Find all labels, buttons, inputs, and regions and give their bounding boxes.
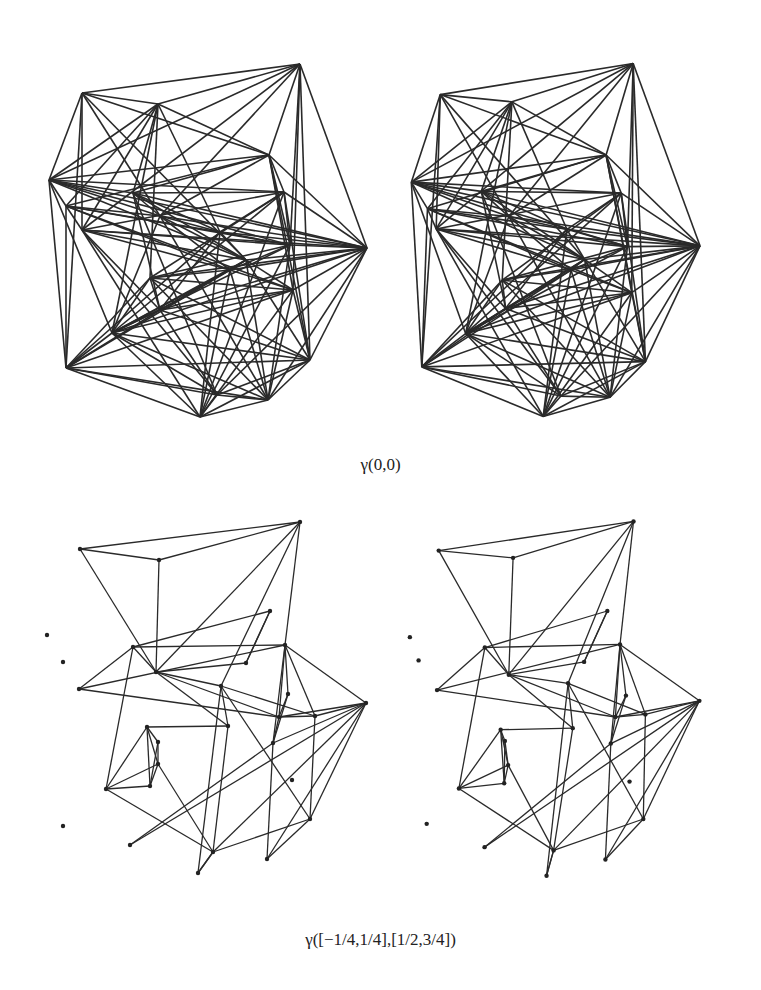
graph-vertex xyxy=(582,660,586,664)
graph-vertex xyxy=(511,556,515,560)
graph-vertex xyxy=(506,763,510,767)
graph-vertex xyxy=(408,635,412,639)
graph-edge xyxy=(554,701,700,851)
graph-edge xyxy=(509,521,634,674)
graph-edge xyxy=(411,182,421,367)
graph-vertex xyxy=(618,642,622,646)
graph-edge xyxy=(568,683,643,819)
graph-edge xyxy=(156,663,246,672)
graph-vertex xyxy=(277,715,281,719)
graph-vertex xyxy=(605,609,609,613)
dense-graph-top-right xyxy=(411,63,700,416)
graph-edge xyxy=(273,645,285,743)
graph-vertex xyxy=(148,784,152,788)
graph-edge xyxy=(82,230,290,245)
graph-edge xyxy=(246,611,270,663)
graph-vertex xyxy=(551,848,555,852)
graph-edge xyxy=(80,549,156,672)
graph-vertex xyxy=(298,520,302,524)
graph-edge xyxy=(106,789,213,852)
graph-vertex xyxy=(131,645,135,649)
graph-vertex xyxy=(271,741,275,745)
graph-edge xyxy=(112,333,200,417)
graph-vertex xyxy=(435,688,439,692)
graph-vertex xyxy=(219,684,223,688)
graph-edge xyxy=(300,64,367,248)
graph-vertex xyxy=(61,824,65,828)
graph-vertex xyxy=(503,739,507,743)
graph-vertex xyxy=(156,740,160,744)
graph-edge xyxy=(501,728,573,730)
graph-edge xyxy=(66,368,268,400)
graph-vertex xyxy=(641,817,645,821)
graph-edge xyxy=(513,521,633,557)
graph-edge xyxy=(79,645,285,689)
graph-edge xyxy=(439,551,509,675)
graph-edge xyxy=(459,648,485,789)
sparse-graph-bottom-right xyxy=(408,519,702,878)
graph-edge xyxy=(159,522,300,560)
graph-edge xyxy=(568,683,645,714)
graph-edge xyxy=(221,686,310,819)
graph-edge xyxy=(66,333,112,368)
graph-edge xyxy=(133,611,270,647)
graph-edge xyxy=(439,521,634,550)
graph-vertex xyxy=(154,670,158,674)
graph-edge xyxy=(485,701,700,847)
graph-edge xyxy=(422,293,632,367)
graph-edge xyxy=(273,703,366,743)
graph-vertex xyxy=(424,822,428,826)
graph-vertex xyxy=(364,701,368,705)
graph-edge xyxy=(643,701,699,819)
graph-vertex xyxy=(157,558,161,562)
graph-edge xyxy=(485,744,611,848)
graph-vertex xyxy=(571,726,575,730)
graph-edge xyxy=(485,648,509,675)
graph-vertex xyxy=(603,857,607,861)
graph-edge xyxy=(627,246,700,247)
graph-edge xyxy=(568,521,633,683)
graph-edge xyxy=(506,308,646,361)
graph-vertex xyxy=(61,660,65,664)
graph-edge xyxy=(422,367,610,397)
graph-edge xyxy=(437,690,615,717)
graph-vertex xyxy=(631,519,635,523)
graph-vertex xyxy=(624,693,628,697)
graph-edge xyxy=(605,701,699,860)
graph-vertex xyxy=(78,547,82,551)
graph-edge xyxy=(221,522,300,686)
graph-edge xyxy=(66,368,200,417)
dense-graph-top-left xyxy=(49,64,367,417)
graph-edge xyxy=(66,155,269,206)
graph-vertex xyxy=(308,817,312,821)
graph-vertex xyxy=(483,645,487,649)
graph-vertex xyxy=(507,673,511,677)
graph-edge xyxy=(49,180,66,368)
graph-edge xyxy=(422,362,646,367)
graph-edge xyxy=(158,104,269,155)
graph-edge xyxy=(66,93,82,368)
graph-edge xyxy=(217,360,310,395)
graph-edge xyxy=(422,334,466,367)
graph-vertex xyxy=(283,643,287,647)
graph-edge xyxy=(440,95,606,155)
graph-edge xyxy=(610,246,700,397)
graph-edge xyxy=(133,192,284,193)
graph-edge xyxy=(459,788,554,850)
graph-edge xyxy=(267,703,366,859)
graph-edge xyxy=(200,360,310,417)
graph-edge xyxy=(160,310,217,395)
graph-vertex xyxy=(566,681,570,685)
graph-vertex xyxy=(498,728,502,732)
graph-edge xyxy=(508,765,553,850)
graph-vertex xyxy=(437,548,441,552)
graph-vertex xyxy=(313,714,317,718)
graph-vertex xyxy=(697,699,701,703)
graph-edge xyxy=(605,744,610,860)
graph-vertex xyxy=(128,843,132,847)
graph-vertex xyxy=(544,874,548,878)
graph-vertex xyxy=(609,741,613,745)
graph-edge xyxy=(156,522,300,672)
graph-edge xyxy=(66,290,293,368)
graph-edge xyxy=(509,558,513,675)
